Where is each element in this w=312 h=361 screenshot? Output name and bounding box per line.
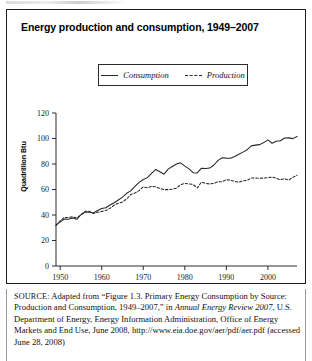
x-tick-group: 195019601970198019902000 bbox=[52, 266, 276, 282]
y-tick-label: 20 bbox=[41, 236, 49, 245]
y-tick-label: 100 bbox=[37, 134, 49, 143]
y-tick-group: 020406080100120 bbox=[37, 109, 56, 271]
y-tick-label: 0 bbox=[45, 262, 49, 271]
line-chart-svg: 020406080100120 195019601970198019902000 bbox=[7, 10, 307, 285]
figure-page: Energy production and consumption, 1949–… bbox=[0, 0, 312, 361]
source-left-rule bbox=[6, 289, 7, 361]
source-note: SOURCE: Adapted from “Figure 1.3. Primar… bbox=[14, 291, 302, 348]
cropped-figure-caption-artifact bbox=[6, 1, 126, 4]
series-line-consumption bbox=[56, 136, 297, 225]
y-tick-label: 40 bbox=[41, 211, 49, 220]
x-tick-label: 1990 bbox=[218, 273, 234, 282]
source-right-rule bbox=[305, 289, 306, 361]
series-line-production bbox=[56, 175, 297, 225]
x-tick-label: 2000 bbox=[260, 273, 276, 282]
source-publication-title: Annual Energy Review 2007 bbox=[175, 302, 273, 312]
y-tick-label: 60 bbox=[41, 185, 49, 194]
x-tick-label: 1950 bbox=[52, 273, 68, 282]
y-tick-label: 120 bbox=[37, 109, 49, 118]
page-top-artifact bbox=[0, 0, 312, 7]
x-tick-label: 1980 bbox=[177, 273, 193, 282]
y-tick-label: 80 bbox=[41, 160, 49, 169]
axes-group bbox=[56, 113, 297, 266]
figure-frame: Energy production and consumption, 1949–… bbox=[6, 9, 306, 284]
source-label: SOURCE: bbox=[14, 292, 50, 301]
x-tick-label: 1960 bbox=[94, 273, 110, 282]
plot-area: Quadrillion Btu 020406080100120 19501960… bbox=[7, 10, 307, 285]
x-tick-label: 1970 bbox=[135, 273, 151, 282]
